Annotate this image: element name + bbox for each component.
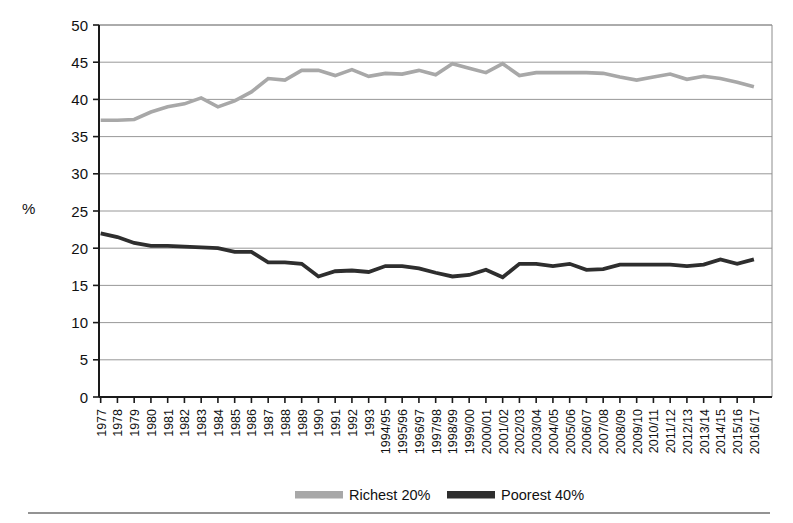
y-tick-label: 25 bbox=[71, 203, 88, 220]
x-tick-label: 2011/12 bbox=[664, 409, 678, 453]
x-tick-label: 1997/98 bbox=[430, 409, 444, 454]
x-tick-label: 1984 bbox=[212, 409, 226, 437]
y-tick-label: 50 bbox=[71, 17, 88, 34]
x-tick-label: 1982 bbox=[178, 409, 192, 437]
data-series-group bbox=[101, 64, 754, 278]
y-tick-label: 40 bbox=[71, 91, 88, 108]
x-axis-tick-labels: 1977197819791980198119821983198419851986… bbox=[95, 409, 762, 454]
x-tick-label: 1985 bbox=[229, 409, 243, 437]
x-tick-label: 1993 bbox=[363, 409, 377, 437]
x-tick-label: 1979 bbox=[128, 409, 142, 437]
chart-canvas: 05101520253035404550 % 19771978197919801… bbox=[0, 0, 793, 523]
x-tick-label: 2009/10 bbox=[631, 409, 645, 454]
x-tick-label: 2015/16 bbox=[731, 409, 745, 454]
x-tick-label: 2016/17 bbox=[748, 409, 762, 454]
legend-label-poorest-40: Poorest 40% bbox=[501, 487, 584, 503]
x-tick-label: 1978 bbox=[111, 409, 125, 437]
x-tick-label: 2012/13 bbox=[681, 409, 695, 454]
y-tick-label: 10 bbox=[71, 314, 88, 331]
x-tick-label: 2003/04 bbox=[530, 409, 544, 454]
x-tick-label: 1987 bbox=[262, 409, 276, 437]
x-tick-label: 1995/96 bbox=[396, 409, 410, 454]
y-axis bbox=[93, 25, 99, 397]
legend-swatch-poorest-40 bbox=[447, 491, 495, 499]
income-share-line-chart: 05101520253035404550 % 19771978197919801… bbox=[0, 0, 793, 523]
x-tick-label: 2005/06 bbox=[564, 409, 578, 454]
y-tick-label: 5 bbox=[80, 351, 88, 368]
x-tick-label: 2008/09 bbox=[614, 409, 628, 454]
y-tick-label: 45 bbox=[71, 54, 88, 71]
x-tick-label: 1983 bbox=[195, 409, 209, 437]
y-tick-label: 0 bbox=[80, 389, 88, 406]
x-tick-label: 1986 bbox=[245, 409, 259, 437]
legend-swatch-richest-20 bbox=[295, 491, 343, 499]
legend-label-richest-20: Richest 20% bbox=[349, 487, 431, 503]
x-tick-label: 2004/05 bbox=[547, 409, 561, 454]
y-tick-label: 20 bbox=[71, 240, 88, 257]
y-tick-label: 35 bbox=[71, 128, 88, 145]
x-tick-label: 1998/99 bbox=[446, 409, 460, 454]
x-tick-label: 2010/11 bbox=[647, 409, 661, 453]
x-tick-label: 1980 bbox=[145, 409, 159, 437]
y-axis-title: % bbox=[22, 200, 35, 217]
x-tick-label: 1992 bbox=[346, 409, 360, 437]
x-axis bbox=[99, 397, 772, 403]
x-tick-label: 1989 bbox=[296, 409, 310, 437]
x-tick-label: 2013/14 bbox=[698, 409, 712, 454]
x-tick-label: 1999/00 bbox=[463, 409, 477, 454]
x-tick-label: 1991 bbox=[329, 409, 343, 437]
y-axis-tick-labels: 05101520253035404550 bbox=[71, 17, 88, 406]
x-tick-label: 1981 bbox=[162, 409, 176, 437]
x-tick-label: 2007/08 bbox=[597, 409, 611, 454]
x-tick-label: 2014/15 bbox=[714, 409, 728, 454]
series-line-richest-20 bbox=[101, 64, 754, 121]
x-tick-label: 1988 bbox=[279, 409, 293, 437]
x-tick-label: 1994/95 bbox=[379, 409, 393, 454]
x-tick-label: 2001/02 bbox=[497, 409, 511, 454]
x-tick-label: 2000/01 bbox=[480, 409, 494, 454]
chart-legend: Richest 20%Poorest 40% bbox=[295, 487, 584, 503]
x-tick-label: 2002/03 bbox=[513, 409, 527, 454]
y-tick-label: 30 bbox=[71, 165, 88, 182]
x-tick-label: 2006/07 bbox=[580, 409, 594, 454]
x-tick-label: 1996/97 bbox=[413, 409, 427, 454]
x-tick-label: 1990 bbox=[312, 409, 326, 437]
y-tick-label: 15 bbox=[71, 277, 88, 294]
series-line-poorest-40 bbox=[101, 233, 754, 277]
x-tick-label: 1977 bbox=[95, 409, 109, 437]
